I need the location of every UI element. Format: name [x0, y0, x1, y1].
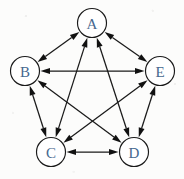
edge-b-c: [33, 95, 44, 128]
arrowhead-b-d-to-b-icon: [37, 80, 46, 88]
node-b-label: B: [20, 64, 30, 80]
arrowhead-a-d-to-d-icon: [123, 127, 129, 137]
arrowhead-b-e-to-b-icon: [41, 68, 51, 74]
edge-e-d: [142, 95, 153, 128]
arrowhead-a-c-to-a-icon: [82, 38, 88, 48]
arrowhead-b-c-to-c-icon: [41, 127, 47, 137]
arrowhead-e-c-to-c-icon: [63, 135, 72, 143]
arrowhead-a-b-to-a-icon: [70, 32, 79, 40]
edge-a-c: [59, 47, 85, 128]
arrowhead-e-d-to-d-icon: [139, 127, 145, 137]
node-a-label: A: [87, 16, 98, 32]
arrowhead-a-c-to-c-icon: [56, 127, 62, 137]
arrowhead-a-e-to-e-icon: [138, 54, 147, 62]
edges-layer: [30, 32, 156, 155]
graph-svg: ABECD: [0, 0, 184, 179]
node-c-label: C: [46, 145, 56, 161]
arrowhead-a-d-to-a-icon: [97, 38, 103, 48]
arrowhead-b-d-to-d-icon: [112, 135, 121, 143]
arrowhead-b-c-to-b-icon: [30, 86, 36, 96]
edge-a-e: [112, 37, 139, 56]
arrowhead-c-d-to-c-icon: [67, 149, 77, 155]
node-d[interactable]: D: [120, 138, 149, 167]
diagram-canvas: ABECD: [0, 0, 184, 179]
node-b[interactable]: B: [11, 57, 40, 86]
edge-a-b: [45, 38, 71, 57]
arrowhead-a-b-to-b-icon: [38, 54, 47, 62]
arrowhead-c-d-to-d-icon: [109, 149, 119, 155]
arrowhead-e-d-to-e-icon: [150, 86, 156, 96]
edge-a-d: [100, 47, 127, 128]
nodes-layer: ABECD: [11, 9, 175, 167]
arrowhead-b-e-to-e-icon: [135, 68, 145, 74]
node-c[interactable]: C: [37, 138, 66, 167]
node-a[interactable]: A: [78, 9, 107, 38]
arrowhead-e-c-to-e-icon: [138, 80, 147, 88]
node-e[interactable]: E: [146, 57, 175, 86]
arrowhead-a-e-to-a-icon: [105, 32, 114, 40]
node-d-label: D: [129, 145, 140, 161]
node-e-label: E: [155, 64, 164, 80]
edge-e-c: [71, 86, 140, 137]
edge-b-d: [45, 86, 114, 137]
